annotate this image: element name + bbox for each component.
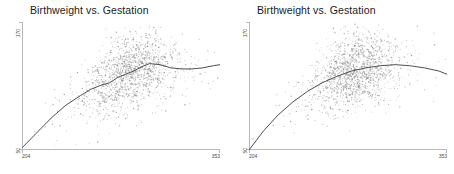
chart-panel-right: Birthweight vs. Gestation 170 50 204 353 — [227, 0, 454, 174]
x-axis-label-right: 353 — [439, 153, 447, 159]
x-axis-label-left: 204 — [22, 153, 30, 159]
y-axis-label-top: 170 — [15, 29, 21, 37]
chart-title: Birthweight vs. Gestation — [257, 4, 376, 16]
x-axis-label-right: 353 — [212, 153, 220, 159]
y-axis-label-top: 170 — [242, 29, 248, 37]
scatter-canvas-left — [22, 22, 220, 150]
chart-panel-left: Birthweight vs. Gestation 170 50 204 353 — [0, 0, 227, 174]
scatter-canvas-right — [249, 22, 447, 150]
fit-curve — [22, 64, 220, 148]
x-axis-label-left: 204 — [249, 153, 257, 159]
scatter-points — [34, 25, 218, 145]
y-axis-label-bottom: 50 — [15, 148, 21, 154]
chart-pair: Birthweight vs. Gestation 170 50 204 353… — [0, 0, 454, 174]
plot-area-right: 170 50 204 353 — [249, 22, 447, 150]
chart-title: Birthweight vs. Gestation — [30, 4, 149, 16]
scatter-points — [252, 24, 446, 147]
y-axis-label-bottom: 50 — [242, 148, 248, 154]
plot-area-left: 170 50 204 353 — [22, 22, 220, 150]
